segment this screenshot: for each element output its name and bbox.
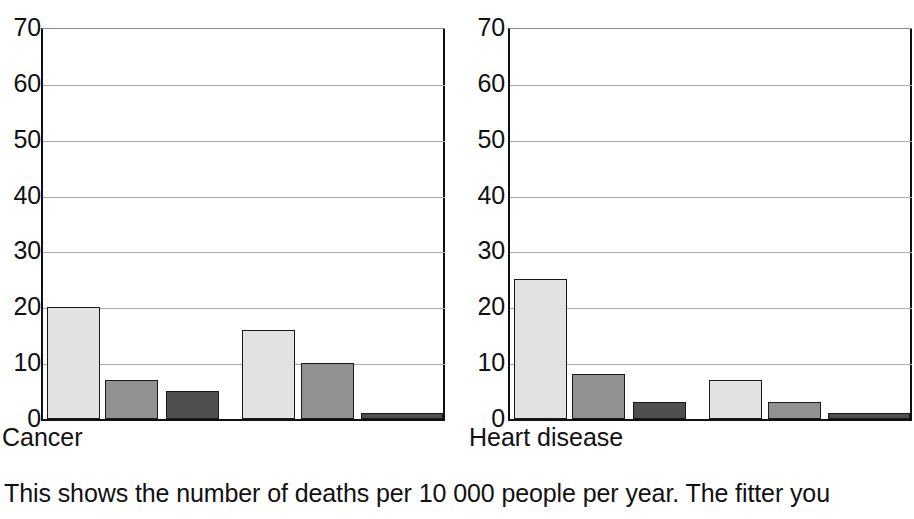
gridline-cancer-40: [43, 197, 445, 198]
bar-heart-disease-g1-dark: [633, 402, 686, 419]
plot-right-edge-cancer: [443, 29, 445, 419]
gridline-cancer-20: [43, 308, 445, 309]
figure-caption: This shows the number of deaths per 10 0…: [4, 478, 904, 508]
y-axis-ticks-heart-disease: 010203040506070: [464, 0, 505, 455]
bar-cancer-g1-medium: [105, 380, 158, 419]
bar-heart-disease-g2-medium: [768, 402, 821, 419]
bar-cancer-g2-light: [242, 330, 295, 419]
gridline-heart-disease-10: [510, 364, 912, 365]
y-tick-label-heart-disease-10: 10: [469, 350, 505, 375]
plot-area-heart-disease: [508, 28, 912, 419]
x-axis-line-heart-disease: [508, 419, 912, 421]
bar-heart-disease-g2-light: [709, 380, 762, 419]
gridline-heart-disease-50: [510, 141, 912, 142]
gridline-heart-disease-40: [510, 197, 912, 198]
gridline-cancer-30: [43, 252, 445, 253]
y-tick-label-cancer-30: 30: [5, 238, 41, 263]
y-tick-label-heart-disease-60: 60: [469, 71, 505, 96]
chart-panel-heart-disease: 010203040506070 Heart disease: [464, 0, 914, 455]
y-tick-label-cancer-70: 70: [5, 15, 41, 40]
category-label-cancer: Cancer: [2, 423, 83, 451]
y-tick-label-heart-disease-40: 40: [469, 183, 505, 208]
bar-heart-disease-g1-medium: [572, 374, 625, 419]
y-tick-label-heart-disease-20: 20: [469, 294, 505, 319]
bar-cancer-g2-dark: [361, 413, 443, 419]
category-label-heart-disease: Heart disease: [469, 423, 623, 451]
y-tick-label-cancer-10: 10: [5, 350, 41, 375]
y-tick-label-heart-disease-30: 30: [469, 238, 505, 263]
bar-cancer-g2-medium: [301, 363, 354, 419]
bar-heart-disease-g1-light: [514, 279, 567, 419]
figure-page: 010203040506070 Cancer 010203040506070 H…: [0, 0, 914, 519]
bar-cancer-g1-dark: [166, 391, 219, 419]
y-axis-ticks-cancer: 010203040506070: [0, 0, 41, 455]
gridline-heart-disease-20: [510, 308, 912, 309]
chart-panel-cancer: 010203040506070 Cancer: [0, 0, 450, 455]
charts-row: 010203040506070 Cancer 010203040506070 H…: [0, 0, 914, 455]
y-tick-label-cancer-50: 50: [5, 127, 41, 152]
y-tick-label-heart-disease-70: 70: [469, 15, 505, 40]
bar-cancer-g1-light: [47, 307, 100, 419]
plot-right-edge-heart-disease: [910, 29, 912, 419]
y-tick-label-heart-disease-50: 50: [469, 127, 505, 152]
y-tick-label-cancer-60: 60: [5, 71, 41, 96]
plot-area-cancer: [41, 28, 445, 419]
gridline-cancer-60: [43, 85, 445, 86]
y-tick-label-cancer-20: 20: [5, 294, 41, 319]
gridline-heart-disease-60: [510, 85, 912, 86]
gridline-cancer-50: [43, 141, 445, 142]
gridline-heart-disease-30: [510, 252, 912, 253]
y-tick-label-cancer-40: 40: [5, 183, 41, 208]
x-axis-line-cancer: [41, 419, 445, 421]
bar-heart-disease-g2-dark: [828, 413, 910, 419]
